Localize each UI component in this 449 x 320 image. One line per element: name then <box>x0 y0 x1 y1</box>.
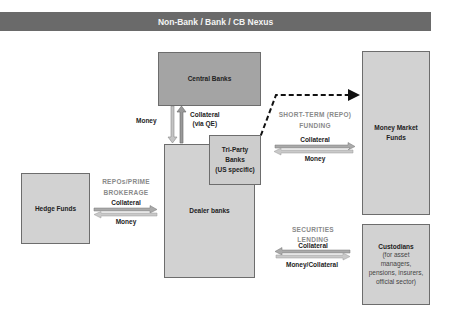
repo-prime-category: REPOs/PRIME BROKERAGE <box>94 176 158 198</box>
short-term-category: SHORT-TERM (REPO) FUNDING <box>272 109 358 131</box>
tri-party-line1: Tri-Party <box>222 145 248 155</box>
money-down-arrow <box>168 106 177 143</box>
custodians-sub1: (for asset <box>382 251 409 260</box>
st-collateral-label: Collateral <box>272 135 358 144</box>
central-banks-label: Central Banks <box>188 74 232 84</box>
node-custodians: Custodians (for asset managers, pensions… <box>362 224 430 305</box>
custodians-sub2: managers, <box>381 260 412 269</box>
collateral-qe-line1: Collateral <box>190 110 220 119</box>
repo-money-label: Money <box>94 217 158 226</box>
short-term-cat1: SHORT-TERM (REPO) <box>272 109 358 120</box>
short-term-cat2: FUNDING <box>272 120 358 131</box>
repo-prime-cat2: BROKERAGE <box>94 187 158 198</box>
mmf-line1: Money Market <box>374 123 417 133</box>
tri-party-line2: Banks <box>225 155 245 165</box>
collateral-qe-line2: (via QE) <box>190 119 220 128</box>
repo-prime-cat1: REPOs/PRIME <box>94 176 158 187</box>
tri-party-line3: (US specific) <box>215 165 254 175</box>
dealer-banks-label: Dealer banks <box>189 206 229 216</box>
node-hedge-funds: Hedge Funds <box>21 173 90 244</box>
sec-lending-cat1: SECURITIES <box>276 225 350 235</box>
node-tri-party-banks: Tri-Party Banks (US specific) <box>209 135 261 185</box>
collateral-qe-label: Collateral (via QE) <box>190 110 220 129</box>
sl-money-collateral-label: Money/Collateral <box>272 260 352 269</box>
custodians-sub3: pensions, insurers, <box>369 269 424 278</box>
node-money-market-funds: Money Market Funds <box>362 51 430 215</box>
st-money-label: Money <box>272 154 358 163</box>
mmf-line2: Funds <box>386 133 406 143</box>
node-central-banks: Central Banks <box>158 52 261 106</box>
hedge-funds-label: Hedge Funds <box>35 204 76 214</box>
custodians-sub4: official sector) <box>376 278 416 287</box>
collateral-up-arrow <box>177 106 186 143</box>
custodians-label: Custodians <box>378 243 413 252</box>
repo-collateral-label: Collateral <box>94 198 158 207</box>
sl-collateral-label: Collateral <box>276 241 350 250</box>
money-label: Money <box>136 116 157 125</box>
money-collateral-right-arrow <box>276 253 350 260</box>
